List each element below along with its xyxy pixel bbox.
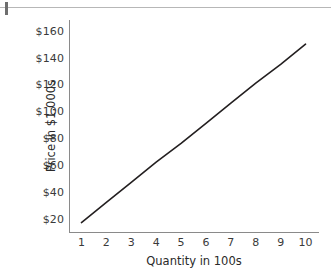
x-axis-title: Quantity in 100s [69, 254, 319, 268]
y-axis-tick-label: $160 [36, 24, 64, 37]
x-axis-tick-label: 9 [277, 236, 284, 249]
x-axis-tick-label: 1 [78, 236, 85, 249]
x-axis-tick-label: 5 [178, 236, 185, 249]
y-axis-title-container: Price in $1,000s [24, 20, 25, 232]
x-axis-tick-label: 8 [252, 236, 259, 249]
series-layer [69, 20, 318, 232]
x-axis-tick-label: 4 [153, 236, 160, 249]
x-axis-tick-label: 10 [299, 236, 313, 249]
y-axis-title: Price in $1,000s [44, 61, 58, 191]
supply-line-path [81, 44, 305, 222]
chart-screenshot: $20$40$60$80$100$120$140$160 Price in $1… [0, 0, 331, 278]
x-axis-tick-label: 2 [103, 236, 110, 249]
x-axis-line [69, 232, 319, 233]
x-axis-tick-label: 6 [202, 236, 209, 249]
x-axis-tick-label: 3 [128, 236, 135, 249]
y-axis-tick-label: $20 [43, 212, 64, 225]
x-axis-tick-label: 7 [227, 236, 234, 249]
plot-area [69, 20, 318, 232]
